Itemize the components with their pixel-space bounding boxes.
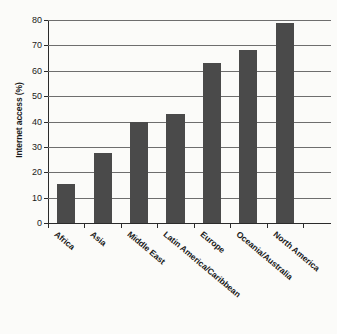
x-axis-label: Asia [89, 229, 109, 248]
y-axis-title: Internet access (%) [10, 0, 28, 240]
bar-slot [157, 20, 193, 223]
plot-area: 01020304050607080 [48, 20, 303, 223]
y-tick-label-10: 10 [32, 193, 42, 203]
bar-slot [194, 20, 230, 223]
bar[interactable] [57, 184, 75, 223]
bar-slot [48, 20, 84, 223]
y-tick-label-70: 70 [32, 40, 42, 50]
x-axis-label: Middle East [125, 229, 167, 266]
y-tick-label-60: 60 [32, 66, 42, 76]
bar-slot [267, 20, 303, 223]
y-tick-label-40: 40 [32, 117, 42, 127]
x-tick-mark [303, 223, 304, 228]
gridline-0: 0 [48, 223, 331, 224]
bar[interactable] [94, 153, 112, 223]
y-tick-label-30: 30 [32, 142, 42, 152]
bar[interactable] [166, 114, 184, 223]
bar[interactable] [239, 50, 257, 223]
bar[interactable] [203, 63, 221, 223]
y-tick-label-80: 80 [32, 15, 42, 25]
bar[interactable] [130, 122, 148, 224]
bar-slot [121, 20, 157, 223]
x-tick-mark [121, 223, 122, 228]
y-axis-title-text: Internet access (%) [14, 82, 24, 158]
x-tick-mark [230, 223, 231, 228]
x-tick-mark [48, 223, 49, 228]
bar-chart-figure: Internet access (%) 01020304050607080 Af… [0, 0, 337, 334]
bar-slot [230, 20, 266, 223]
x-tick-mark [157, 223, 158, 228]
y-tick-label-0: 0 [37, 218, 42, 228]
bars-layer [48, 20, 303, 223]
bar-slot [84, 20, 120, 223]
x-axis-labels: AfricaAsiaMiddle EastLatin America/Carib… [48, 229, 337, 334]
y-tick-label-50: 50 [32, 91, 42, 101]
x-tick-mark [267, 223, 268, 228]
bar[interactable] [276, 23, 294, 223]
x-axis-label: Africa [52, 229, 76, 252]
x-tick-mark [84, 223, 85, 228]
y-tick-label-20: 20 [32, 167, 42, 177]
x-axis-label: Europe [198, 229, 226, 255]
x-tick-mark [194, 223, 195, 228]
